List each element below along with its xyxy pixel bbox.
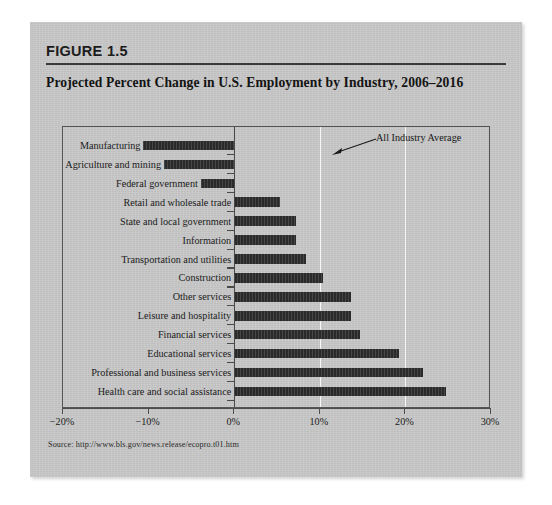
bar-row: Other services [63, 287, 489, 306]
category-label: Federal government [116, 176, 198, 191]
category-label: State and local government [120, 214, 231, 229]
x-axis-tick-label: −20% [50, 416, 74, 427]
bar [234, 273, 323, 283]
bar-row: Leisure and hospitality [63, 306, 489, 325]
figure-header: FIGURE 1.5 Projected Percent Change in U… [46, 42, 506, 91]
bar-row: Educational services [63, 344, 489, 363]
scanned-page-card: FIGURE 1.5 Projected Percent Change in U… [30, 22, 522, 477]
bar-row: Professional and business services [63, 363, 489, 382]
header-divider [46, 63, 506, 65]
category-label: Transportation and utilities [121, 252, 231, 267]
bar-row: Agriculture and mining [63, 155, 489, 174]
bar-row: Financial services [63, 325, 489, 344]
x-axis-tick [148, 408, 149, 414]
category-label: Agriculture and mining [65, 157, 161, 172]
bar [201, 179, 234, 189]
x-axis-tick-label: −10% [135, 416, 159, 427]
x-axis-line [62, 408, 490, 409]
bar [234, 292, 350, 302]
x-axis-tick-label: 10% [309, 416, 328, 427]
x-axis-tick [404, 408, 405, 414]
bar [234, 330, 360, 340]
bar-row: Federal government [63, 174, 489, 193]
x-axis-tick-label: 30% [481, 416, 500, 427]
bar-row: State and local government [63, 212, 489, 231]
bar [234, 349, 398, 359]
category-label: Other services [173, 289, 232, 304]
category-label: Information [183, 233, 232, 248]
category-label: Professional and business services [91, 365, 231, 380]
figure-title: Projected Percent Change in U.S. Employm… [46, 74, 506, 91]
figure-number: FIGURE 1.5 [46, 42, 506, 60]
screenshot-root: FIGURE 1.5 Projected Percent Change in U… [0, 0, 552, 505]
x-axis-tick-label: 20% [395, 416, 414, 427]
category-label: Manufacturing [80, 138, 141, 153]
average-annotation-arrow [330, 136, 378, 156]
category-label: Financial services [158, 327, 231, 342]
bar [234, 311, 350, 321]
bar-row: Health care and social assistance [63, 382, 489, 401]
x-axis-tick [319, 408, 320, 414]
average-annotation-label: All Industry Average [376, 132, 461, 143]
bar-row: Construction [63, 269, 489, 288]
plot-area: ManufacturingAgriculture and miningFeder… [63, 127, 489, 407]
category-tick [227, 400, 234, 401]
x-axis-tick [490, 408, 491, 414]
bar [164, 160, 234, 170]
category-label: Retail and wholesale trade [123, 195, 231, 210]
category-label: Health care and social assistance [98, 384, 232, 399]
x-axis-tick [233, 408, 234, 414]
category-label: Construction [179, 270, 232, 285]
source-note: Source: http://www.bls.gov/news.release/… [48, 440, 239, 449]
category-label: Leisure and hospitality [138, 308, 231, 323]
x-axis-tick-label: 0% [226, 416, 240, 427]
bar [234, 235, 296, 245]
bar [234, 387, 445, 397]
bar [234, 254, 306, 264]
bar-row: Transportation and utilities [63, 250, 489, 269]
plot-frame: ManufacturingAgriculture and miningFeder… [62, 126, 490, 408]
category-label: Educational services [147, 346, 231, 361]
bar [234, 216, 296, 226]
bar [143, 141, 234, 151]
bar-row: Information [63, 231, 489, 250]
bar [234, 197, 280, 207]
bar-row: Retail and wholesale trade [63, 193, 489, 212]
x-axis-tick [62, 408, 63, 414]
bar [234, 368, 422, 378]
